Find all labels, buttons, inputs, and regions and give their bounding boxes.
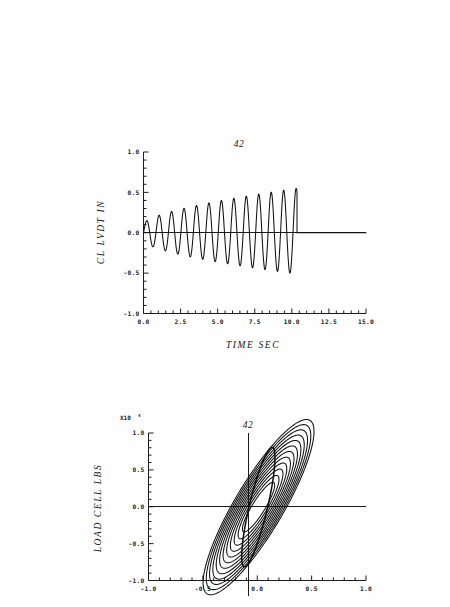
chart-bottom-x-ticklabel: 0.5 [306, 585, 318, 592]
chart-bottom-y-ticklabels: -1.0-0.50.00.51.0 [128, 429, 144, 584]
chart-bottom-y-ticklabel: 0.0 [132, 503, 144, 510]
hysteresis-loop [206, 425, 310, 590]
chart-top-x-axis-label: TIME SEC [226, 340, 280, 350]
chart-bottom-y-ticklabel: -1.0 [128, 577, 144, 584]
chart-bottom-y-ticklabel: 1.0 [132, 429, 144, 436]
hysteresis-loop [216, 440, 301, 573]
chart-bottom-hysteresis-loops [203, 419, 314, 594]
chart-bottom-x-ticklabel: -1.0 [140, 585, 156, 592]
hysteresis-loop [213, 435, 304, 579]
chart-bottom-title: 42 [243, 420, 254, 430]
chart-top-y-ticklabel: -1.0 [123, 310, 139, 317]
chart-bottom-x-ticklabel: 1.0 [360, 585, 372, 592]
chart-top-x-major-ticks [144, 309, 367, 314]
chart-top-x-ticklabel: 10.0 [284, 318, 300, 325]
chart-bottom-y-axis-label: LOAD CELL LBS [93, 464, 103, 554]
chart-top-x-ticklabels: 0.02.55.07.510.012.515.0 [137, 318, 374, 325]
chart-top-x-ticklabel: 15.0 [358, 318, 374, 325]
chart-top-waveform-trace [144, 188, 367, 273]
chart-top-y-ticklabel: 0.0 [127, 229, 139, 236]
chart-top-y-ticklabel: 0.5 [127, 189, 139, 196]
chart-top-y-ticklabels: -1.0-0.50.00.51.0 [123, 148, 139, 316]
plot-page: 42 -1.0-0.50.00.51.0 0.02.55.07.510.012.… [0, 0, 450, 607]
hysteresis-loop [203, 419, 314, 594]
chart-bottom-x-ticklabel: 0.0 [251, 585, 263, 592]
chart-bottom-y-exponent-base: X10 [120, 414, 131, 421]
chart-top-title: 42 [234, 139, 245, 149]
chart-top-x-ticklabel: 2.5 [175, 318, 187, 325]
chart-top-x-ticklabel: 12.5 [321, 318, 337, 325]
chart-bottom-x-ticklabels: -1.0-0.50.00.51.0 [140, 585, 372, 592]
chart-top-x-ticklabel: 7.5 [249, 318, 261, 325]
chart-bottom-y-ticklabel: -0.5 [128, 540, 144, 547]
chart-top-y-axis-label: CL LVDT IN [96, 200, 106, 264]
chart-bottom-y-ticklabel: 0.5 [132, 466, 144, 473]
chart-cl-lvdt-time-history: 42 -1.0-0.50.00.51.0 0.02.55.07.510.012.… [0, 0, 450, 360]
chart-bottom-y-exponent: X10 4 [120, 413, 141, 421]
chart-top-y-ticklabel: -0.5 [123, 269, 139, 276]
chart-bottom-y-exponent-power: 4 [138, 413, 141, 418]
chart-top-x-ticklabel: 5.0 [212, 318, 224, 325]
chart-top-y-ticklabel: 1.0 [127, 148, 139, 155]
chart-top-x-ticklabel: 0.0 [137, 318, 149, 325]
chart-load-cell-hysteresis: 42 X10 4 -1.0-0.50.00.51.0 -1.0-0.50.00.… [0, 400, 450, 607]
